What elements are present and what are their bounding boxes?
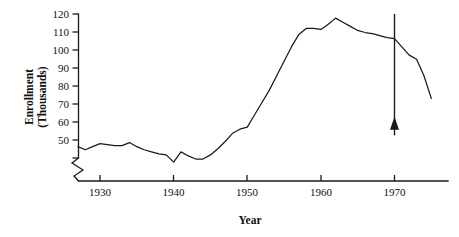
y-axis-break-symbol <box>72 158 83 181</box>
y-tick-label: 90 <box>58 62 70 74</box>
year-1970-marker <box>390 14 399 135</box>
y-tick-label: 100 <box>53 44 70 56</box>
x-tick-labels: 1930 1940 1950 1960 1970 <box>89 186 406 198</box>
x-tick-label: 1970 <box>384 186 407 198</box>
y-axis-title-line2: (Thousands) <box>36 66 49 128</box>
y-tick-label: 80 <box>58 80 70 92</box>
x-axis-title: Year <box>239 214 262 226</box>
x-tick-label: 1940 <box>163 186 186 198</box>
x-tick-label: 1930 <box>89 186 112 198</box>
y-axis-title: Enrollment (Thousands) <box>23 66 49 128</box>
y-tick-label: 60 <box>58 116 70 128</box>
marker-arrow-up-icon <box>390 117 399 130</box>
enrollment-line-chart: 120 110 100 90 80 70 60 50 1930 1940 195… <box>0 0 459 237</box>
x-tick-marks <box>100 175 395 181</box>
x-tick-label: 1960 <box>310 186 333 198</box>
chart-canvas: 120 110 100 90 80 70 60 50 1930 1940 195… <box>0 0 459 237</box>
data-series-enrollment <box>78 18 431 162</box>
y-tick-label: 120 <box>53 8 70 20</box>
x-tick-label: 1950 <box>236 186 259 198</box>
y-tick-marks <box>73 14 79 158</box>
y-tick-labels: 120 110 100 90 80 70 60 50 <box>53 8 70 146</box>
y-tick-label: 70 <box>58 98 70 110</box>
y-tick-label: 50 <box>58 134 70 146</box>
y-axis-title-line1: Enrollment <box>23 69 35 125</box>
y-tick-label: 110 <box>53 26 70 38</box>
